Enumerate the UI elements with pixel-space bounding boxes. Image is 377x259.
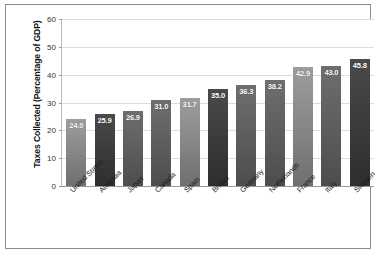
plot-area: 0102030405060 24.025.926.931.031.735.036… — [61, 19, 374, 187]
bar[interactable]: 38.2 — [265, 80, 285, 186]
y-tick-label: 20 — [32, 126, 56, 135]
y-tick-mark — [59, 186, 62, 187]
y-tick-label: 40 — [32, 70, 56, 79]
chart-figure: Taxes Collected (Percentage of GDP) 0102… — [0, 0, 377, 259]
bar-value-label: 25.9 — [98, 116, 112, 125]
y-tick-label: 10 — [32, 154, 56, 163]
bar-slot: 36.3 — [236, 19, 256, 186]
bar-value-label: 45.8 — [353, 61, 367, 70]
bar-slot: 45.8 — [350, 19, 370, 186]
y-tick-label: 30 — [32, 98, 56, 107]
y-tick-label: 60 — [32, 15, 56, 24]
y-tick-label: 50 — [32, 42, 56, 51]
bar-value-label: 24.0 — [69, 121, 83, 130]
bar[interactable]: 43.0 — [321, 66, 341, 186]
bar-slot: 31.7 — [180, 19, 200, 186]
figure-frame: Taxes Collected (Percentage of GDP) 0102… — [5, 4, 371, 249]
bar-slot: 43.0 — [321, 19, 341, 186]
y-tick-label: 0 — [32, 182, 56, 191]
bar-slot: 24.0 — [66, 19, 86, 186]
bar-value-label: 31.7 — [183, 100, 197, 109]
bar-value-label: 35.0 — [211, 91, 225, 100]
bar-slot: 31.0 — [151, 19, 171, 186]
bar-slot: 26.9 — [123, 19, 143, 186]
bar-series: 24.025.926.931.031.735.036.338.242.943.0… — [62, 19, 374, 186]
bar-slot: 38.2 — [265, 19, 285, 186]
bar-value-label: 26.9 — [126, 113, 140, 122]
bar-value-label: 43.0 — [324, 68, 338, 77]
bar-value-label: 42.9 — [296, 69, 310, 78]
x-axis-labels: United StatesAustraliaJapanCanadaSpainBr… — [61, 188, 373, 258]
bar-slot: 35.0 — [208, 19, 228, 186]
bar[interactable]: 31.7 — [180, 98, 200, 186]
bar[interactable]: 45.8 — [350, 59, 370, 186]
bar-value-label: 36.3 — [239, 87, 253, 96]
bar-value-label: 38.2 — [268, 82, 282, 91]
bar-value-label: 31.0 — [154, 102, 168, 111]
bar[interactable]: 35.0 — [208, 89, 228, 186]
